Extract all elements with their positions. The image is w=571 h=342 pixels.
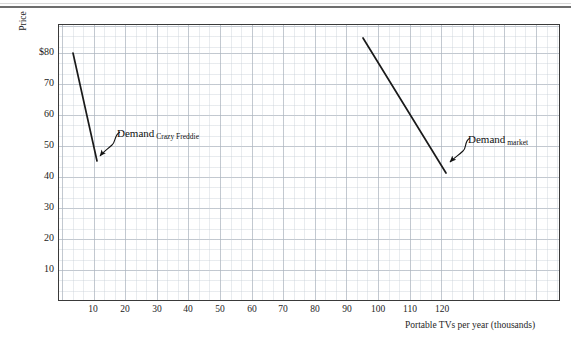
x-tick-120: 120 bbox=[427, 304, 457, 314]
annotation-subscript: market bbox=[507, 138, 528, 147]
x-tick-60: 60 bbox=[237, 304, 267, 314]
x-tick-90: 90 bbox=[332, 304, 362, 314]
x-axis-title: Portable TVs per year (thousands) bbox=[405, 320, 535, 330]
figure-page: Price $80 70 60 50 40 30 20 10 bbox=[0, 0, 571, 342]
x-tick-10: 10 bbox=[78, 304, 108, 314]
x-tick-100: 100 bbox=[363, 304, 393, 314]
x-tick-50: 50 bbox=[205, 304, 235, 314]
x-tick-80: 80 bbox=[300, 304, 330, 314]
annotation-label: Demand bbox=[468, 133, 505, 145]
x-tick-110: 110 bbox=[395, 304, 425, 314]
annotation-label: Demand bbox=[117, 127, 154, 139]
x-tick-40: 40 bbox=[173, 304, 203, 314]
x-tick-30: 30 bbox=[142, 304, 172, 314]
x-tick-labels: 10 20 30 40 50 60 70 80 90 100 110 120 bbox=[0, 0, 571, 342]
annotation-subscript: Crazy Freddie bbox=[156, 132, 199, 141]
x-tick-20: 20 bbox=[110, 304, 140, 314]
annotation-demand-market: Demandmarket bbox=[468, 133, 528, 145]
annotation-demand-crazy-freddie: DemandCrazy Freddie bbox=[117, 127, 199, 139]
x-tick-70: 70 bbox=[268, 304, 298, 314]
